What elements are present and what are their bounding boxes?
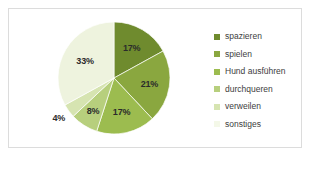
legend-item-label: spielen <box>225 50 252 59</box>
legend-item-label: verweilen <box>225 102 261 111</box>
chart-frame: 17%21%17%8%4%33% spazierenspielenHund au… <box>8 8 302 148</box>
pie-slice-value-label: 4% <box>52 113 65 123</box>
pie-slice-value-label: 21% <box>141 79 158 89</box>
pie-chart-plot-area: 17%21%17%8%4%33% spazierenspielenHund au… <box>9 9 303 149</box>
legend-color-swatch <box>214 51 220 57</box>
pie-slice-value-label: 17% <box>113 107 130 117</box>
legend-color-swatch <box>214 121 220 127</box>
legend-item-label: durchqueren <box>225 85 273 94</box>
legend-item-spielen[interactable]: spielen <box>214 46 302 63</box>
legend-item-label: Hund ausführen <box>225 67 286 76</box>
legend-color-swatch <box>214 104 220 110</box>
legend-item-durchqueren[interactable]: durchqueren <box>214 81 302 98</box>
legend-color-swatch <box>214 86 220 92</box>
legend-item-verweilen[interactable]: verweilen <box>214 98 302 115</box>
legend-item-label: sonstiges <box>225 120 261 129</box>
pie-slice-value-label: 8% <box>87 106 100 116</box>
legend-color-swatch <box>214 69 220 75</box>
legend-item-label: spazieren <box>225 32 262 41</box>
legend-item-spazieren[interactable]: spazieren <box>214 28 302 45</box>
legend-color-swatch <box>214 34 220 40</box>
pie-slice-value-label: 17% <box>123 43 140 53</box>
chart-legend: spazierenspielenHund ausführendurchquere… <box>214 28 302 133</box>
legend-item-hund-ausführen[interactable]: Hund ausführen <box>214 63 302 80</box>
pie-slice-value-label: 33% <box>76 56 93 66</box>
legend-item-sonstiges[interactable]: sonstiges <box>214 116 302 133</box>
